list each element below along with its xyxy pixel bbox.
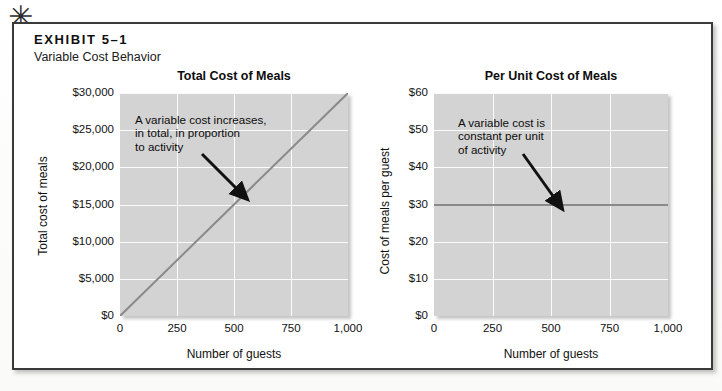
y-tick-label: $30: [358, 198, 428, 210]
chart-per-unit-cost-of-meals: Per Unit Cost of Meals Cost of meals per…: [14, 24, 715, 372]
y-tick-label: $0: [358, 309, 428, 321]
y-tick-label: $50: [358, 123, 428, 135]
x-tick-label: 1,000: [638, 322, 698, 334]
y-tick-label: $40: [358, 160, 428, 172]
y-tick-label: $20: [358, 235, 428, 247]
x-tick-label: 250: [463, 322, 523, 334]
x-tick-label: 750: [580, 322, 640, 334]
x-tick-label: 500: [521, 322, 581, 334]
exhibit-page: ✳ EXHIBIT 5–1 Variable Cost Behavior Tot…: [0, 0, 722, 391]
x-tick-label: 0: [404, 322, 464, 334]
y-tick-label: $60: [358, 86, 428, 98]
exhibit-frame: EXHIBIT 5–1 Variable Cost Behavior Total…: [12, 22, 713, 370]
y-tick-label: $10: [358, 272, 428, 284]
